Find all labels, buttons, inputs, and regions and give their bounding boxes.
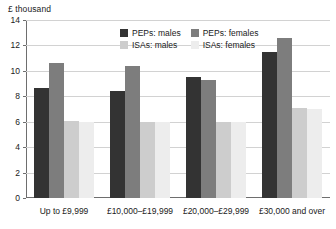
bar	[216, 122, 231, 198]
bar	[262, 52, 277, 198]
legend-label: ISAs: females	[203, 41, 255, 50]
units-caption: £ thousand	[8, 4, 51, 14]
bar	[110, 91, 125, 198]
x-axis-label: Up to £9,999	[40, 206, 89, 216]
bar	[201, 80, 216, 198]
bar	[49, 63, 64, 198]
legend-entry: PEPs: females	[191, 29, 259, 38]
y-axis-tick-label: 8	[15, 91, 20, 101]
x-axis-label: £30,000 and over	[259, 206, 325, 216]
legend-label: ISAs: males	[132, 41, 177, 50]
x-axis-label: £20,000–£29,999	[183, 206, 249, 216]
bar	[140, 122, 155, 198]
y-axis-tick-label: 10	[11, 66, 20, 76]
y-axis-tick-label: 14	[11, 15, 20, 25]
bar	[307, 109, 322, 198]
bar	[292, 108, 307, 198]
y-axis-tick-label: 0	[15, 193, 20, 203]
y-axis-tick-label: 12	[11, 40, 20, 50]
y-axis-tick-label: 2	[15, 168, 20, 178]
bar	[231, 122, 246, 198]
legend-label: PEPs: males	[132, 29, 181, 38]
bar	[277, 38, 292, 198]
bar	[64, 121, 79, 198]
bar	[155, 122, 170, 198]
legend-swatch-icon	[120, 29, 128, 37]
bar-group	[26, 20, 102, 198]
bar	[79, 122, 94, 198]
legend-label: PEPs: females	[203, 29, 259, 38]
legend-entry: PEPs: males	[120, 29, 181, 38]
legend-swatch-icon	[120, 41, 128, 49]
y-axis-tick	[23, 198, 26, 199]
legend-swatch-icon	[191, 29, 199, 37]
y-axis-tick-label: 6	[15, 117, 20, 127]
legend-entry: ISAs: females	[191, 41, 259, 50]
bar-group	[254, 20, 330, 198]
bar	[186, 77, 201, 198]
bar	[34, 88, 49, 198]
legend-entry: ISAs: males	[120, 41, 181, 50]
y-axis-tick-label: 4	[15, 142, 20, 152]
bar-chart: £ thousand 02468101214 Up to £9,999£10,0…	[0, 0, 336, 229]
x-axis-label: £10,000–£19,999	[107, 206, 173, 216]
legend-swatch-icon	[191, 41, 199, 49]
chart-legend: PEPs: malesPEPs: femalesISAs: malesISAs:…	[118, 28, 260, 50]
bar	[125, 66, 140, 198]
